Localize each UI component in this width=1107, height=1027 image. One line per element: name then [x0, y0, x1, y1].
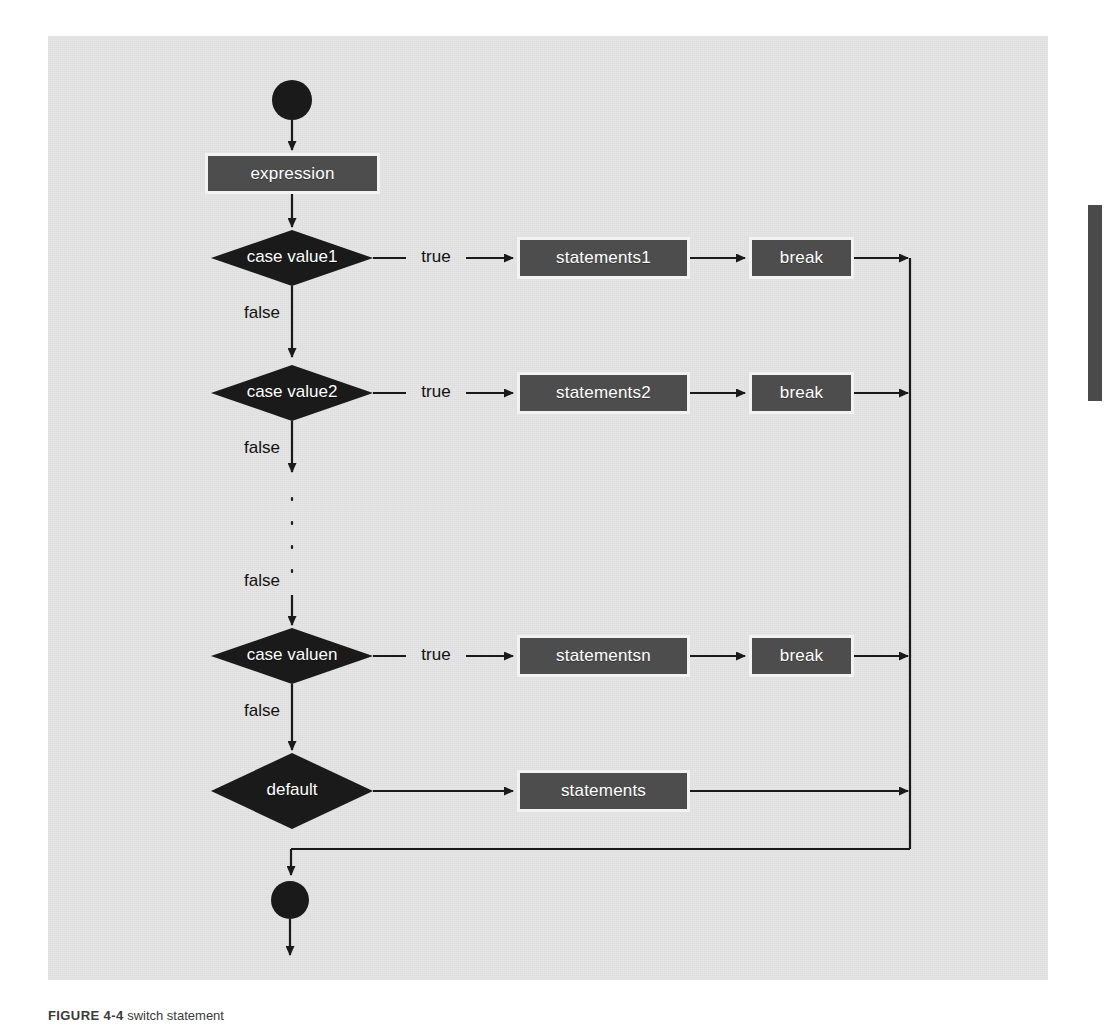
end-node — [271, 881, 309, 919]
figure-caption: FIGURE 4-4 switch statement — [48, 1008, 948, 1023]
decision-label-case-valuen: case valuen — [212, 645, 372, 665]
process-box-statements2[interactable]: statements2 — [517, 372, 690, 414]
process-box-break2[interactable]: break — [749, 372, 854, 414]
decision-label-case-value1: case value1 — [212, 247, 372, 267]
process-box-statementsn[interactable]: statementsn — [517, 635, 690, 677]
process-box-label: statements1 — [556, 248, 651, 268]
start-node — [272, 80, 312, 120]
figure-caption-lead: FIGURE 4-4 — [48, 1008, 124, 1023]
edge-label-false-1: false — [232, 303, 292, 323]
edge-label-false-dots: false — [232, 571, 292, 591]
edge-label-true-2: true — [406, 382, 466, 402]
process-box-label: break — [780, 383, 824, 403]
process-box-expression[interactable]: expression — [205, 153, 380, 194]
process-box-label: statementsn — [556, 646, 651, 666]
process-box-label: expression — [250, 164, 334, 184]
process-box-break1[interactable]: break — [749, 237, 854, 279]
process-box-label: statements2 — [556, 383, 651, 403]
edge-label-false-2: false — [232, 438, 292, 458]
process-box-breakn[interactable]: break — [749, 635, 854, 677]
process-box-statements1[interactable]: statements1 — [517, 237, 690, 279]
edge-label-true-1: true — [406, 247, 466, 267]
edge-label-false-n: false — [232, 701, 292, 721]
process-box-statements[interactable]: statements — [517, 770, 690, 812]
decision-label-default: default — [212, 780, 372, 800]
figure-caption-text: switch statement — [127, 1008, 224, 1023]
edge-label-true-n: true — [406, 645, 466, 665]
process-box-label: break — [780, 646, 824, 666]
process-box-label: break — [780, 248, 824, 268]
figure-container: expression statements1 break statements2… — [0, 0, 1107, 1027]
decision-label-case-value2: case value2 — [212, 382, 372, 402]
flowchart-connectors — [0, 0, 1107, 1027]
process-box-label: statements — [561, 781, 646, 801]
